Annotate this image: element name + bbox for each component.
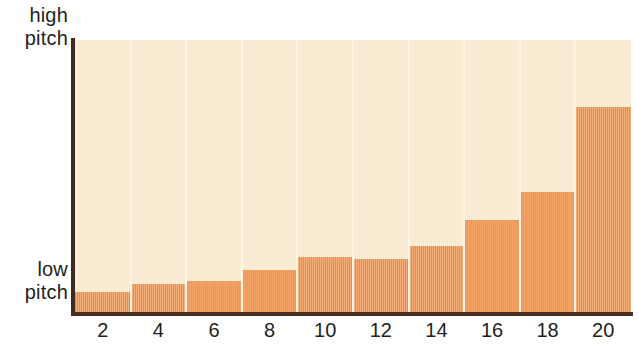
x-tick-label-2: 2 bbox=[81, 318, 125, 342]
plot-area bbox=[75, 40, 631, 313]
gridline-2 bbox=[185, 40, 187, 313]
bar-18 bbox=[520, 192, 576, 313]
x-tick-label-16: 16 bbox=[470, 318, 514, 342]
x-tick-label-14: 14 bbox=[414, 318, 458, 342]
gridline-1 bbox=[130, 40, 132, 313]
bar-texture bbox=[353, 259, 409, 313]
x-tick-label-10: 10 bbox=[303, 318, 347, 342]
bar-12 bbox=[353, 259, 409, 313]
y-axis-low-label-line2: pitch bbox=[0, 281, 68, 304]
bar-texture bbox=[575, 107, 631, 313]
x-tick-label-12: 12 bbox=[359, 318, 403, 342]
gridline-6 bbox=[408, 40, 410, 313]
bar-4 bbox=[131, 284, 187, 313]
y-axis-line bbox=[71, 38, 75, 316]
gridline-5 bbox=[352, 40, 354, 313]
x-axis-line bbox=[71, 312, 633, 316]
bar-texture bbox=[75, 292, 131, 313]
y-axis-high-pitch-label: high pitch bbox=[0, 4, 68, 50]
bar-6 bbox=[186, 281, 242, 313]
y-axis-high-label-line2: pitch bbox=[0, 27, 68, 50]
gridline-3 bbox=[241, 40, 243, 313]
bar-14 bbox=[409, 246, 465, 313]
bar-texture bbox=[242, 270, 298, 313]
x-tick-label-6: 6 bbox=[192, 318, 236, 342]
y-axis-low-pitch-label: low pitch bbox=[0, 258, 68, 304]
gridline-4 bbox=[296, 40, 298, 313]
bar-2 bbox=[75, 292, 131, 313]
bar-texture bbox=[186, 281, 242, 313]
x-tick-label-18: 18 bbox=[526, 318, 570, 342]
bar-texture bbox=[131, 284, 187, 313]
bar-texture bbox=[520, 192, 576, 313]
y-axis-high-label-line1: high bbox=[0, 4, 68, 27]
bar-texture bbox=[409, 246, 465, 313]
bar-8 bbox=[242, 270, 298, 313]
bar-10 bbox=[297, 257, 353, 313]
x-tick-label-4: 4 bbox=[136, 318, 180, 342]
x-tick-label-20: 20 bbox=[581, 318, 625, 342]
gridline-7 bbox=[463, 40, 465, 313]
bar-20 bbox=[575, 107, 631, 313]
bar-texture bbox=[297, 257, 353, 313]
pitch-bar-chart-figure: high pitch low pitch 2468101214161820 bbox=[0, 0, 639, 344]
bar-16 bbox=[464, 220, 520, 313]
x-tick-label-8: 8 bbox=[248, 318, 292, 342]
bar-texture bbox=[464, 220, 520, 313]
gridline-9 bbox=[574, 40, 576, 313]
y-axis-low-label-line1: low bbox=[0, 258, 68, 281]
gridline-8 bbox=[519, 40, 521, 313]
